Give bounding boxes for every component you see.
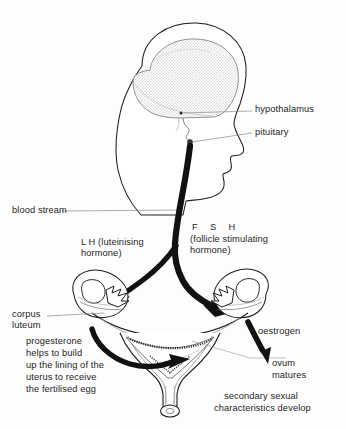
label-blood-stream: blood stream	[12, 205, 67, 216]
diagram-canvas: hypothalamus pituitary blood stream L H …	[0, 0, 346, 429]
label-corpus-line1: corpus	[12, 309, 41, 320]
label-fsh-line1: F S H	[192, 222, 238, 233]
label-pituitary: pituitary	[255, 127, 288, 138]
label-oestrogen: oestrogen	[258, 326, 300, 337]
label-secondary-line1: secondary sexual	[224, 391, 298, 402]
label-secondary-line2: characteristics develop	[214, 403, 311, 414]
label-hypothalamus: hypothalamus	[255, 104, 314, 115]
label-fsh-line2: (follicle stimulating	[190, 234, 268, 245]
label-lh-line1: L H (luteinising	[81, 237, 144, 248]
label-progesterone-line2: helps to build	[26, 348, 82, 359]
label-corpus-line2: luteum	[12, 320, 41, 331]
label-progesterone-line3: up the lining of the	[26, 360, 104, 371]
label-progesterone-line4: uterus to receive	[26, 372, 96, 383]
left-ovary	[73, 270, 129, 317]
label-ovum-line2: matures	[272, 370, 306, 381]
label-progesterone-line1: progesterone	[26, 336, 82, 347]
label-progesterone-line5: the fertilised egg	[26, 384, 96, 395]
fallopian-tubes	[92, 313, 248, 336]
label-lh-line2: hormone)	[81, 248, 122, 259]
label-fsh-line3: hormone)	[190, 245, 231, 256]
label-ovum-line1: ovum	[272, 358, 295, 369]
